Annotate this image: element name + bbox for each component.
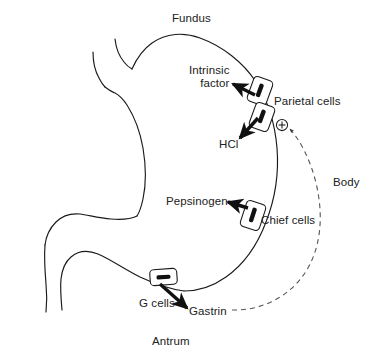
lesser-curvature: [105, 87, 145, 216]
label-parietal-cells: Parietal cells: [274, 95, 341, 108]
stomach-diagram: Fundus Body Antrum Intrinsic factor HCl …: [0, 0, 385, 354]
label-body: Body: [333, 176, 360, 189]
esophagus-left-wall: [93, 52, 105, 87]
stimulation-plus-icon: [276, 119, 287, 130]
label-gastrin: Gastrin: [189, 305, 227, 318]
label-fundus: Fundus: [172, 12, 211, 25]
label-chief-cells: Chief cells: [261, 214, 315, 227]
stomach-illustration: [0, 0, 385, 354]
label-hcl: HCl: [219, 138, 238, 151]
duodenum-outer-wall: [45, 245, 47, 312]
parietal-cell-lower: [248, 101, 276, 132]
label-intrinsic-factor: Intrinsic factor: [189, 64, 230, 90]
label-antrum: Antrum: [152, 335, 190, 348]
g-cell: [149, 268, 177, 286]
antrum-upper-wall: [45, 214, 137, 245]
pepsinogen-arrow: [228, 202, 248, 208]
label-g-cells: G cells: [139, 297, 175, 310]
esophagus-right-wall: [115, 39, 132, 69]
label-pepsinogen: Pepsinogen: [166, 195, 228, 208]
